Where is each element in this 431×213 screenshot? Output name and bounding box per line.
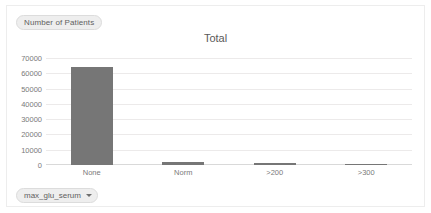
measure-pill-number-of-patients[interactable]: Number of Patients	[16, 15, 102, 30]
x-axis-tick-labels: NoneNorm>200>300	[46, 168, 412, 180]
bar-slot	[46, 58, 138, 165]
bar-slot	[138, 58, 230, 165]
bar-series	[46, 58, 412, 165]
bar-300[interactable]	[345, 164, 387, 166]
dimension-pill-max-glu-serum[interactable]: max_glu_serum	[16, 188, 98, 203]
bar-none[interactable]	[71, 67, 113, 165]
x-axis-tick-label: >200	[229, 168, 321, 177]
dimension-pill-label: max_glu_serum	[24, 191, 81, 200]
x-axis-tick-label: Norm	[138, 168, 230, 177]
bar-slot	[229, 58, 321, 165]
bar-200[interactable]	[254, 163, 296, 165]
chevron-down-icon[interactable]	[86, 194, 92, 197]
x-axis-tick-label: None	[46, 168, 138, 177]
plot-area	[46, 58, 412, 165]
chart-title: Total	[0, 32, 431, 44]
x-axis-tick-label: >300	[321, 168, 413, 177]
measure-pill-label: Number of Patients	[24, 18, 94, 27]
bar-slot	[321, 58, 413, 165]
bar-norm[interactable]	[162, 162, 204, 165]
chart-widget: Number of Patients Total 700006000050000…	[0, 0, 431, 213]
